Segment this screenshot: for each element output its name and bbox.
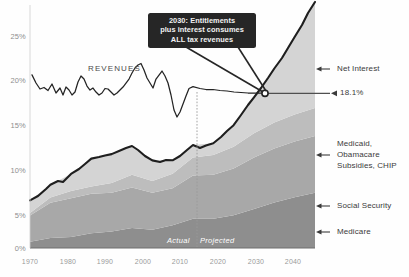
y-tick-15: 15%: [2, 121, 26, 130]
callout-line-1: 2030: Entitlements: [150, 16, 254, 25]
x-tick-2010: 2010: [165, 258, 195, 265]
y-tick-20: 20%: [2, 76, 26, 85]
projected-label: Projected: [200, 236, 234, 245]
y-tick-5: 5%: [2, 211, 26, 220]
revenues-label: REVENUES: [88, 64, 141, 73]
callout-box: 2030: Entitlements plus interest consume…: [148, 13, 256, 48]
x-tick-2040: 2040: [278, 258, 308, 265]
actual-label: Actual: [167, 236, 190, 245]
y-tick-25: 25%: [2, 32, 26, 41]
x-tick-2020: 2020: [203, 258, 233, 265]
x-tick-1970: 1970: [15, 258, 45, 265]
chart-figure: 25% 20% 15% 10% 5% 0% 1970 1980 1990 200…: [0, 0, 409, 277]
crossover-value-label: 18.1%: [340, 88, 364, 97]
callout-line-2: plus interest consumes: [150, 25, 254, 34]
label-pointer-heads: [316, 66, 337, 234]
x-tick-1980: 1980: [53, 258, 83, 265]
series-label-net-interest: Net Interest: [337, 64, 380, 74]
x-tick-2030: 2030: [241, 258, 271, 265]
series-label-medicaid-line2: Obamacare: [337, 150, 380, 160]
series-label-medicaid-line1: Medicaid,: [337, 139, 372, 149]
series-label-medicare: Medicare: [337, 227, 371, 237]
series-label-medicaid-line3: Subsidies, CHIP: [337, 161, 397, 171]
series-label-social-security: Social Security: [337, 201, 391, 211]
x-tick-1990: 1990: [90, 258, 120, 265]
y-tick-0: 0%: [2, 244, 26, 253]
callout-line-3: ALL tax revenues: [150, 35, 254, 44]
y-tick-10: 10%: [2, 166, 26, 175]
x-tick-2000: 2000: [128, 258, 158, 265]
